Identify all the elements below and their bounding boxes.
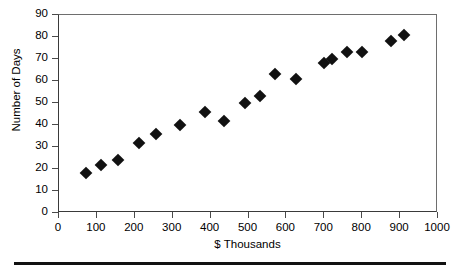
data-point-marker bbox=[174, 119, 187, 132]
y-axis-tick-label: 0 bbox=[20, 206, 48, 218]
data-point-marker bbox=[149, 127, 162, 140]
y-axis-tick bbox=[52, 146, 58, 147]
data-point-marker bbox=[384, 35, 397, 48]
x-axis-tick bbox=[361, 212, 362, 218]
x-axis-tick-label: 1000 bbox=[415, 222, 459, 234]
y-axis-tick-label: 80 bbox=[20, 30, 48, 42]
data-point-marker bbox=[341, 46, 354, 59]
data-point-marker bbox=[290, 72, 303, 85]
x-axis-tick bbox=[248, 212, 249, 218]
y-axis-tick bbox=[52, 124, 58, 125]
x-axis-tick bbox=[437, 212, 438, 218]
y-axis-tick bbox=[52, 14, 58, 15]
y-axis-tick-label: 40 bbox=[20, 118, 48, 130]
scatter-chart-figure: 0102030405060708090010020030040050060070… bbox=[0, 0, 460, 276]
x-axis-tick bbox=[58, 212, 59, 218]
y-axis-tick bbox=[52, 36, 58, 37]
y-axis-tick bbox=[52, 168, 58, 169]
data-point-marker bbox=[111, 154, 124, 167]
y-axis-tick-label: 70 bbox=[20, 52, 48, 64]
data-point-marker bbox=[217, 114, 230, 127]
y-axis-tick-label: 90 bbox=[20, 8, 48, 20]
x-axis-title: $ Thousands bbox=[58, 238, 437, 250]
y-axis-tick-label: 20 bbox=[20, 162, 48, 174]
data-point-marker bbox=[199, 105, 212, 118]
y-axis-tick bbox=[52, 80, 58, 81]
x-axis-tick bbox=[285, 212, 286, 218]
y-axis-tick-label: 30 bbox=[20, 140, 48, 152]
data-point-marker bbox=[238, 97, 251, 110]
data-point-marker bbox=[132, 136, 145, 149]
x-axis-tick bbox=[96, 212, 97, 218]
data-point-marker bbox=[356, 46, 369, 59]
x-axis-tick bbox=[323, 212, 324, 218]
y-axis-tick-label: 10 bbox=[20, 184, 48, 196]
y-axis-title: Number of Days bbox=[10, 30, 22, 150]
y-axis-tick bbox=[52, 102, 58, 103]
data-point-marker bbox=[269, 68, 282, 81]
data-point-marker bbox=[398, 28, 411, 41]
data-point-marker bbox=[253, 90, 266, 103]
x-axis-tick bbox=[210, 212, 211, 218]
x-axis-tick bbox=[172, 212, 173, 218]
data-points-layer bbox=[59, 15, 438, 213]
y-axis-tick-label: 60 bbox=[20, 74, 48, 86]
data-point-marker bbox=[94, 158, 107, 171]
y-axis-tick bbox=[52, 58, 58, 59]
y-axis-tick-label: 50 bbox=[20, 96, 48, 108]
y-axis-tick bbox=[52, 190, 58, 191]
bottom-divider-rule bbox=[14, 262, 446, 265]
x-axis-tick bbox=[399, 212, 400, 218]
data-point-marker bbox=[79, 167, 92, 180]
x-axis-tick bbox=[134, 212, 135, 218]
plot-area bbox=[58, 14, 437, 212]
